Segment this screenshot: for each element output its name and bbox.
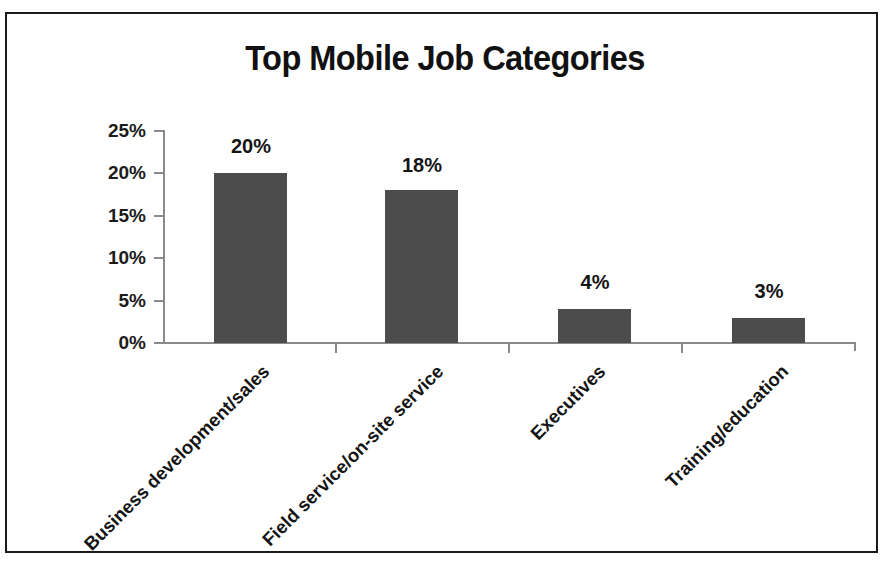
bar-executives[interactable] [558, 309, 631, 343]
bar-value-label-3: 3% [725, 281, 813, 301]
x-tick-1 [335, 344, 337, 353]
bar-value-label-1: 18% [375, 155, 469, 175]
bar-field-service-on-site-service[interactable] [385, 190, 458, 343]
chart-title: Top Mobile Job Categories [31, 38, 859, 78]
chart-figure: Top Mobile Job Categories 25% 20% 15% 10… [0, 0, 890, 564]
x-tick-2 [508, 344, 510, 353]
bar-value-label-0: 20% [204, 136, 298, 156]
bar-holder-2 [558, 131, 631, 343]
x-axis-endcap [854, 342, 856, 351]
bar-holder-0 [214, 131, 287, 343]
bar-value-label-2: 4% [551, 272, 639, 292]
bar-holder-3 [732, 131, 805, 343]
bar-training-education[interactable] [732, 318, 805, 343]
x-tick-3 [681, 344, 683, 353]
bar-business-development-sales[interactable] [214, 173, 287, 343]
